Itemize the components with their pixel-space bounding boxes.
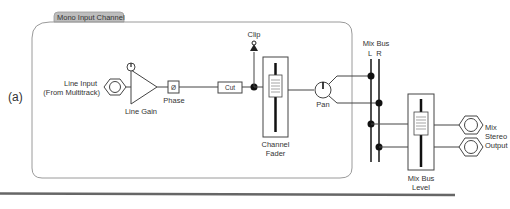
bus-right-in-dot <box>376 100 383 107</box>
mix-bus-title: Mix Bus <box>363 39 390 48</box>
clip-led-icon <box>250 41 258 51</box>
pan-label: Pan <box>316 100 329 109</box>
signal-flow-diagram: (a) Mono Input Channel Line Input (From … <box>0 0 510 209</box>
mix-bus-level-label-1: Mix Bus <box>408 174 435 183</box>
bus-left-in-dot <box>368 73 375 80</box>
figure-label: (a) <box>8 90 23 104</box>
line-input-jack-icon <box>104 79 126 95</box>
phase-label: Phase <box>163 96 184 105</box>
mix-output-label-1: Mix <box>485 123 497 132</box>
channel-fader-label-1: Channel <box>262 140 290 149</box>
channel-title-tab: Mono Input Channel <box>54 12 125 22</box>
mix-bus-left-label: L <box>368 49 372 58</box>
bottom-separator <box>0 194 455 196</box>
mix-bus-level-fader-icon <box>408 94 434 170</box>
cut-label: Cut <box>225 84 235 91</box>
line-gain-label: Line Gain <box>125 107 157 116</box>
line-gain-amplifier-icon <box>127 63 157 104</box>
channel-panel <box>32 22 352 178</box>
channel-title: Mono Input Channel <box>57 13 125 22</box>
channel-fader-icon <box>263 57 288 137</box>
mix-output-label-3: Output <box>485 141 508 150</box>
mix-bus-level-label-2: Level <box>412 183 430 192</box>
mix-output-jack-right-icon <box>459 138 483 156</box>
mix-bus-right-label: R <box>376 49 382 58</box>
channel-fader-label-2: Fader <box>266 149 286 158</box>
mix-output-jack-left-icon <box>459 116 483 134</box>
phase-switch: Ø <box>168 81 179 93</box>
cut-switch: Cut <box>218 82 242 93</box>
pan-knob-icon <box>315 82 331 98</box>
phase-symbol: Ø <box>171 84 176 91</box>
clip-label: Clip <box>248 30 261 39</box>
line-input-label-1: Line Input <box>64 79 98 88</box>
mix-output-label-2: Stereo <box>485 132 507 141</box>
line-input-label-2: (From Multitrack) <box>43 88 100 97</box>
